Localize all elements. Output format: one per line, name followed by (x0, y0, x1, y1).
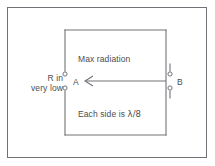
lambda-over-eight: λ/8 (128, 109, 142, 119)
terminal-b-lower-icon (168, 86, 172, 90)
terminal-a-lower-icon (63, 86, 67, 90)
r-in-line1: R in (47, 73, 63, 83)
terminal-b-upper-icon (168, 72, 172, 76)
each-side-prefix: Each side is (78, 109, 128, 119)
antenna-diagram-figure: Max radiation Each side is λ/8 R in very… (0, 0, 215, 166)
terminal-a-label: A (73, 77, 79, 87)
terminal-b-label: B (177, 77, 183, 87)
max-radiation-label: Max radiation (78, 54, 130, 64)
terminal-a-upper-icon (63, 72, 67, 76)
input-resistance-label: R in very low (21, 73, 63, 93)
r-in-line2: very low (21, 83, 63, 93)
each-side-label: Each side is λ/8 (78, 109, 141, 119)
max-radiation-arrow-icon (85, 76, 166, 86)
